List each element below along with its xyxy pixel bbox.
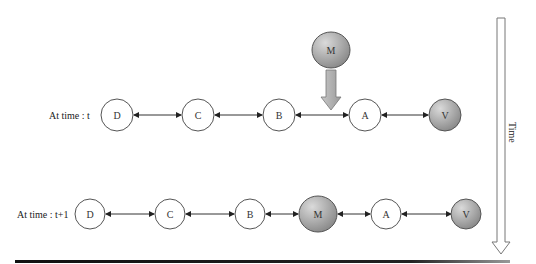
row-time-t-plus-1: At time : t+1 D C B M A V [17,196,481,232]
bottom-rule [15,260,510,263]
svg-text:B: B [247,209,254,220]
svg-text:C: C [167,209,174,220]
svg-text:V: V [462,209,470,220]
svg-text:D: D [86,209,93,220]
node-M-incoming: M [312,32,350,68]
node-D-t1: D [75,199,105,229]
insertion-arrow-icon [321,70,341,110]
row-label-time-t-plus-1: At time : t+1 [17,209,68,220]
svg-text:A: A [361,110,369,121]
time-label: Time [507,122,518,143]
row-time-t: At time : t D C B A V M [49,32,461,131]
svg-text:M: M [314,209,323,220]
svg-text:A: A [382,209,390,220]
svg-text:D: D [113,110,120,121]
node-B: B [263,99,295,131]
time-axis: Time [492,18,518,254]
node-C-t1: C [155,199,185,229]
svg-text:B: B [276,110,283,121]
svg-text:M: M [327,45,336,56]
node-C: C [182,99,214,131]
node-D: D [101,99,133,131]
node-A-t1: A [371,199,401,229]
node-M-t1: M [299,196,337,232]
mobile-node-insertion-diagram: At time : t D C B A V M [0,0,536,264]
svg-text:C: C [195,110,202,121]
svg-text:V: V [441,110,449,121]
node-V: V [429,99,461,131]
node-V-t1: V [451,199,481,229]
node-B-t1: B [235,199,265,229]
node-A: A [349,99,381,131]
row-label-time-t: At time : t [49,110,90,121]
